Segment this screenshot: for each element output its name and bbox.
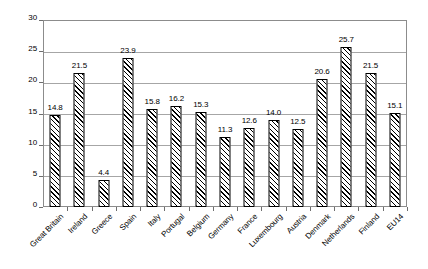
- bars-layer: 14.821.54.423.915.816.215.311.312.614.01…: [43, 20, 407, 207]
- bar-group: 16.2: [164, 20, 188, 207]
- bar-group: 21.5: [358, 20, 382, 207]
- x-axis-tick-mark: [286, 207, 287, 211]
- bar-value-label: 15.3: [193, 101, 208, 109]
- x-axis-tick-mark: [140, 207, 141, 211]
- bar-group: 12.5: [286, 20, 310, 207]
- y-axis-tick-label: 0: [33, 201, 37, 209]
- bar-group: 21.5: [67, 20, 91, 207]
- bar-group: 14.8: [43, 20, 67, 207]
- bar-value-label: 14.0: [266, 109, 281, 117]
- x-axis-tick-mark: [189, 207, 190, 211]
- bar-group: 20.6: [310, 20, 334, 207]
- x-axis-tick-mark: [164, 207, 165, 211]
- bar: [74, 73, 85, 207]
- bar-group: 4.4: [92, 20, 116, 207]
- x-axis-tick-mark: [92, 207, 93, 211]
- x-axis-tick-mark: [237, 207, 238, 211]
- bar: [244, 128, 255, 207]
- bar: [147, 109, 158, 207]
- bar: [389, 113, 400, 207]
- bar-value-label: 11.3: [218, 126, 233, 134]
- bar-value-label: 15.8: [145, 98, 160, 106]
- bar-group: 15.1: [383, 20, 407, 207]
- bar-group: 15.8: [140, 20, 164, 207]
- bar-group: 11.3: [213, 20, 237, 207]
- x-axis-labels: Great BritainIrelandGreeceSpainItalyPort…: [43, 212, 407, 269]
- y-axis-tick-label: 15: [28, 108, 37, 116]
- bar-value-label: 25.7: [339, 36, 354, 44]
- bar-group: 15.3: [189, 20, 213, 207]
- bar-value-label: 21.5: [363, 62, 378, 70]
- bar-value-label: 12.5: [290, 118, 305, 126]
- x-axis-tick-mark: [358, 207, 359, 211]
- x-axis-tick-mark: [334, 207, 335, 211]
- x-axis-tick-mark: [116, 207, 117, 211]
- bar-value-label: 14.8: [48, 104, 63, 112]
- bar: [365, 73, 376, 207]
- bar-chart: 051015202530 14.821.54.423.915.816.215.3…: [0, 0, 428, 269]
- x-axis-tick-mark: [261, 207, 262, 211]
- bar: [50, 115, 61, 207]
- bar: [341, 47, 352, 207]
- y-axis-tick-label: 20: [28, 76, 37, 84]
- bar: [292, 129, 303, 207]
- y-axis-tick-label: 30: [28, 14, 37, 22]
- bar-value-label: 21.5: [72, 62, 87, 70]
- bar-value-label: 15.1: [387, 102, 402, 110]
- bar: [195, 112, 206, 207]
- x-axis-tick-mark: [407, 207, 408, 211]
- x-axis-tick-mark: [383, 207, 384, 211]
- y-axis: 051015202530: [0, 20, 43, 207]
- bar-value-label: 20.6: [314, 68, 329, 76]
- y-axis-tick-label: 25: [28, 45, 37, 53]
- bar-value-label: 4.4: [98, 169, 109, 177]
- bar: [98, 180, 109, 207]
- bar: [268, 120, 279, 207]
- bar-group: 23.9: [116, 20, 140, 207]
- y-axis-tick-label: 10: [28, 139, 37, 147]
- bar-group: 14.0: [261, 20, 285, 207]
- bar: [219, 137, 230, 207]
- bar-group: 12.6: [237, 20, 261, 207]
- bar-value-label: 16.2: [169, 95, 184, 103]
- x-axis-tick-mark: [67, 207, 68, 211]
- bar-value-label: 12.6: [242, 117, 257, 125]
- bar: [317, 79, 328, 207]
- bar: [171, 106, 182, 207]
- bar-group: 25.7: [334, 20, 358, 207]
- x-axis-tick-mark: [213, 207, 214, 211]
- x-axis-tick-mark: [310, 207, 311, 211]
- bar-value-label: 23.9: [120, 47, 135, 55]
- bar: [122, 58, 133, 207]
- y-axis-tick-label: 5: [33, 170, 37, 178]
